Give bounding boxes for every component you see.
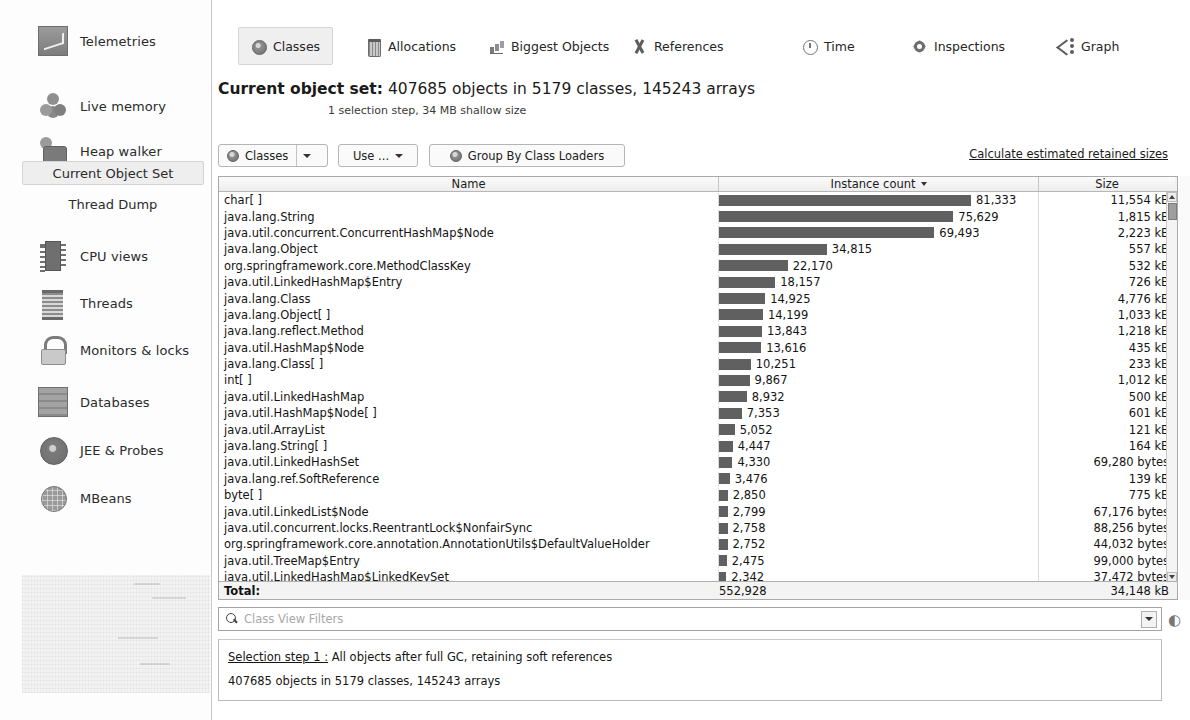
- table-row[interactable]: java.util.LinkedList$Node2,79967,176 byt…: [219, 503, 1177, 519]
- instance-count-value: 9,867: [755, 373, 788, 387]
- sidebar-item-thread-dump[interactable]: Thread Dump: [22, 192, 204, 216]
- instance-count-bar: [719, 342, 761, 353]
- cell-instance-count: 7,353: [719, 405, 1039, 421]
- tab-time[interactable]: Time: [790, 27, 867, 65]
- table-row[interactable]: int[ ]9,8671,012 kB: [219, 372, 1177, 388]
- table-row[interactable]: byte[ ]2,850775 kB: [219, 487, 1177, 503]
- total-size: 34,148 kB: [1039, 584, 1175, 598]
- sidebar-item-telemetries[interactable]: Telemetries: [0, 18, 212, 64]
- column-header-size[interactable]: Size: [1039, 177, 1175, 191]
- cell-class-name: java.lang.Object: [219, 242, 719, 256]
- table-row[interactable]: org.springframework.core.MethodClassKey2…: [219, 258, 1177, 274]
- sidebar-item-cpu-views[interactable]: CPU views: [0, 233, 212, 279]
- sidebar-item-threads[interactable]: Threads: [0, 280, 212, 326]
- table-row[interactable]: java.util.LinkedHashSet4,33069,280 bytes: [219, 454, 1177, 470]
- instance-count-bar: [719, 211, 953, 222]
- chevron-up-icon: [1169, 195, 1175, 199]
- table-vertical-scrollbar[interactable]: [1166, 192, 1177, 582]
- scroll-up-button[interactable]: [1167, 192, 1177, 202]
- table-row[interactable]: java.lang.Object34,815557 kB: [219, 241, 1177, 257]
- table-row[interactable]: java.util.LinkedHashMap8,932500 kB: [219, 389, 1177, 405]
- instance-count-bar: [719, 293, 765, 304]
- page-title-value: 407685 objects in 5179 classes, 145243 a…: [388, 80, 755, 98]
- instance-count-bar: [719, 244, 827, 255]
- table-row[interactable]: char[ ]81,33311,554 kB: [219, 192, 1177, 208]
- sidebar-item-label: JEE & Probes: [80, 443, 164, 458]
- search-settings-icon[interactable]: ◐: [1168, 611, 1181, 629]
- table-row[interactable]: java.util.TreeMap$Entry2,47599,000 bytes: [219, 553, 1177, 569]
- main-vertical-scrollbar[interactable]: [1179, 176, 1190, 600]
- sidebar-item-label: Live memory: [80, 99, 166, 114]
- cell-class-name: java.util.TreeMap$Entry: [219, 554, 719, 568]
- class-view-filter[interactable]: Class View Filters: [218, 607, 1162, 631]
- classes-dropdown-arrow[interactable]: [296, 145, 316, 166]
- tab-classes[interactable]: Classes: [238, 27, 333, 65]
- group-by-label: Group By Class Loaders: [468, 149, 604, 163]
- table-body[interactable]: char[ ]81,33311,554 kBjava.lang.String75…: [219, 192, 1177, 582]
- table-row[interactable]: java.util.ArrayList5,052121 kB: [219, 421, 1177, 437]
- cell-class-name: org.springframework.core.MethodClassKey: [219, 259, 719, 273]
- column-header-name[interactable]: Name: [219, 177, 719, 191]
- instance-count-value: 34,815: [832, 242, 872, 256]
- cell-size: 99,000 bytes: [1039, 554, 1175, 568]
- tab-references[interactable]: References: [620, 27, 735, 65]
- table-row[interactable]: java.util.HashMap$Node13,616435 kB: [219, 340, 1177, 356]
- use-dropdown-button[interactable]: Use ...: [338, 144, 418, 167]
- sidebar-item-mbeans[interactable]: MBeans: [0, 475, 212, 521]
- table-row[interactable]: java.lang.Class[ ]10,251233 kB: [219, 356, 1177, 372]
- cell-class-name: java.util.HashMap$Node: [219, 341, 719, 355]
- cell-size: 1,033 kB: [1039, 308, 1175, 322]
- cell-instance-count: 14,925: [719, 290, 1039, 306]
- threads-icon: [38, 288, 68, 318]
- group-by-class-loaders-button[interactable]: Group By Class Loaders: [429, 144, 625, 167]
- table-row[interactable]: java.util.concurrent.locks.ReentrantLock…: [219, 520, 1177, 536]
- cell-size: 121 kB: [1039, 423, 1175, 437]
- sidebar-item-live-memory[interactable]: Live memory: [0, 83, 212, 129]
- instance-count-bar: [719, 408, 742, 419]
- cell-instance-count: 2,799: [719, 503, 1039, 519]
- search-icon: [226, 613, 238, 625]
- cell-class-name: java.lang.ref.SoftReference: [219, 472, 719, 486]
- sidebar-item-jee-probes[interactable]: JEE & Probes: [0, 427, 212, 473]
- cell-class-name: java.util.ArrayList: [219, 423, 719, 437]
- calculate-retained-sizes-link[interactable]: Calculate estimated retained sizes: [969, 147, 1168, 161]
- scrollbar-thumb[interactable]: [1168, 203, 1177, 220]
- classes-dropdown-button[interactable]: Classes: [218, 144, 328, 167]
- table-row[interactable]: java.util.LinkedHashMap$Entry18,157726 k…: [219, 274, 1177, 290]
- cell-instance-count: 4,330: [719, 454, 1039, 470]
- table-row[interactable]: java.util.concurrent.ConcurrentHashMap$N…: [219, 225, 1177, 241]
- time-icon: [802, 39, 817, 54]
- tab-allocations[interactable]: Allocations: [354, 27, 468, 65]
- tab-biggest-objects[interactable]: Biggest Objects: [477, 27, 621, 65]
- sidebar-item-monitors-locks[interactable]: Monitors & locks: [0, 327, 212, 373]
- classes-dropdown-main[interactable]: Classes: [219, 145, 296, 166]
- cell-size: 1,218 kB: [1039, 324, 1175, 338]
- cell-instance-count: 13,843: [719, 323, 1039, 339]
- instance-count-value: 4,330: [737, 455, 770, 469]
- instance-count-value: 13,843: [767, 324, 807, 338]
- instance-count-value: 2,758: [733, 521, 766, 535]
- biggest-objects-icon: [489, 39, 504, 54]
- sidebar-item-databases[interactable]: Databases: [0, 379, 212, 425]
- tab-label: Inspections: [934, 39, 1005, 54]
- table-row[interactable]: java.lang.reflect.Method13,8431,218 kB: [219, 323, 1177, 339]
- search-dropdown-button[interactable]: [1141, 611, 1157, 628]
- cell-class-name: java.util.LinkedList$Node: [219, 505, 719, 519]
- tab-graph[interactable]: Graph: [1047, 27, 1131, 65]
- table-row[interactable]: org.springframework.core.annotation.Anno…: [219, 536, 1177, 552]
- class-table: Name Instance count Size char[ ]81,33311…: [218, 176, 1178, 600]
- selection-step-link[interactable]: Selection step 1 :: [228, 650, 328, 664]
- table-row[interactable]: java.lang.Class14,9254,776 kB: [219, 290, 1177, 306]
- cell-class-name: int[ ]: [219, 373, 719, 387]
- table-row[interactable]: java.lang.String75,6291,815 kB: [219, 208, 1177, 224]
- tab-inspections[interactable]: Inspections: [900, 27, 1017, 65]
- column-header-instance-count[interactable]: Instance count: [719, 177, 1039, 191]
- instance-count-value: 2,799: [733, 505, 766, 519]
- graph-icon: [1059, 39, 1074, 54]
- table-row[interactable]: java.util.HashMap$Node[ ]7,353601 kB: [219, 405, 1177, 421]
- table-row[interactable]: java.lang.ref.SoftReference3,476139 kB: [219, 471, 1177, 487]
- chevron-down-icon: [1169, 575, 1175, 579]
- table-row[interactable]: java.lang.Object[ ]14,1991,033 kB: [219, 307, 1177, 323]
- sidebar-item-current-object-set[interactable]: Current Object Set: [22, 161, 204, 185]
- table-row[interactable]: java.lang.String[ ]4,447164 kB: [219, 438, 1177, 454]
